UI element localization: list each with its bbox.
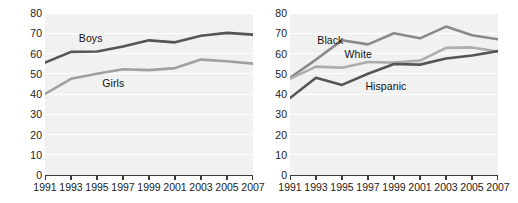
x-tick-label: 2007 — [486, 182, 509, 193]
y-tick-label: 20 — [275, 129, 287, 140]
y-tick-label: 10 — [275, 150, 287, 161]
series-label-hispanic: Hispanic — [365, 81, 406, 92]
y-axis-ticks-right: 01020304050607080 — [265, 0, 287, 203]
y-tick-label: 70 — [275, 28, 287, 39]
x-axis-ticks-right: 199119931995199719992001200320052007 — [259, 182, 518, 198]
y-tick-label: 60 — [30, 48, 42, 59]
y-tick-label: 30 — [275, 109, 287, 120]
x-tick-label: 1997 — [111, 182, 134, 193]
x-tick-label: 1997 — [356, 182, 379, 193]
y-axis-ticks-left: 01020304050607080 — [20, 0, 42, 203]
y-tick-label: 0 — [36, 170, 42, 181]
plot-area-left — [45, 13, 253, 175]
x-tick-label: 2001 — [163, 182, 186, 193]
x-axis-ticks-left: 199119931995199719992001200320052007 — [0, 182, 259, 198]
y-tick-label: 40 — [275, 89, 287, 100]
series-label-girls: Girls — [102, 78, 124, 89]
x-tick-label: 1995 — [85, 182, 108, 193]
chart-panel-right: 01020304050607080 1991199319951997199920… — [259, 0, 518, 203]
x-tick-label: 2003 — [189, 182, 212, 193]
x-tick-label: 1995 — [330, 182, 353, 193]
y-tick-label: 30 — [30, 109, 42, 120]
y-tick-label: 60 — [275, 48, 287, 59]
series-label-boys: Boys — [79, 33, 103, 44]
x-tick-label: 1999 — [382, 182, 405, 193]
x-tick-label: 1993 — [304, 182, 327, 193]
data-line-girls — [45, 60, 253, 94]
series-label-black: Black — [317, 35, 343, 46]
y-tick-label: 10 — [30, 150, 42, 161]
y-tick-label: 50 — [275, 69, 287, 80]
y-tick-label: 70 — [30, 28, 42, 39]
series-label-white: White — [345, 49, 372, 60]
x-tick-label: 1999 — [137, 182, 160, 193]
y-tick-label: 80 — [30, 8, 42, 19]
x-tick-label: 2001 — [408, 182, 431, 193]
x-tick-label: 2003 — [434, 182, 457, 193]
x-tick-label: 1993 — [59, 182, 82, 193]
x-tick-label: 2005 — [460, 182, 483, 193]
chart-panel-left: Percent 01020304050607080 19911993199519… — [0, 0, 259, 203]
x-tick-label: 1991 — [278, 182, 301, 193]
x-tick-label: 1991 — [33, 182, 56, 193]
y-tick-label: 40 — [30, 89, 42, 100]
y-tick-label: 50 — [30, 69, 42, 80]
data-line-boys — [45, 33, 253, 63]
y-tick-label: 0 — [281, 170, 287, 181]
plot-svg — [45, 13, 253, 197]
x-tick-label: 2005 — [215, 182, 238, 193]
y-tick-label: 20 — [30, 129, 42, 140]
chart-figure: Percent 01020304050607080 19911993199519… — [0, 0, 518, 203]
y-tick-label: 80 — [275, 8, 287, 19]
